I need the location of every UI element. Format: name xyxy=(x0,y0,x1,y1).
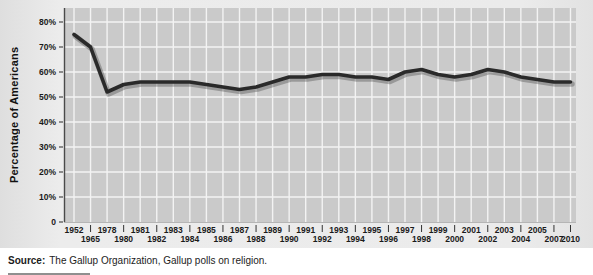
y-tick-label: 0 xyxy=(51,217,56,227)
y-tick-label: 80% xyxy=(39,17,56,27)
x-tick-label: 2002 xyxy=(478,234,497,244)
x-tick-label: 1996 xyxy=(379,234,398,244)
x-tick-label: 1990 xyxy=(280,234,299,244)
source-note: Source:The Gallup Organization, Gallup p… xyxy=(8,255,593,266)
y-tick-label: 50% xyxy=(39,92,56,102)
x-tick-label: 1984 xyxy=(180,234,199,244)
y-tick-label: 70% xyxy=(39,42,56,52)
x-tick-label: 1992 xyxy=(313,234,332,244)
x-tick-label: 1986 xyxy=(213,234,232,244)
y-tick-label: 40% xyxy=(39,117,56,127)
y-tick-label: 60% xyxy=(39,67,56,77)
x-tick-label: 1980 xyxy=(114,234,133,244)
x-tick-label: 1965 xyxy=(81,234,100,244)
x-tick-label: 2010 xyxy=(561,234,580,244)
x-tick-label: 2004 xyxy=(511,234,530,244)
y-tick-label: 30% xyxy=(39,142,56,152)
y-tick-label: 20% xyxy=(39,167,56,177)
source-text: The Gallup Organization, Gallup polls on… xyxy=(49,255,267,266)
y-tick-label: 10% xyxy=(39,192,56,202)
chart-panel: Percentage of Americans 010%20%30%40%50%… xyxy=(0,0,593,248)
x-tick-label: 1994 xyxy=(346,234,365,244)
x-tick-label: 1982 xyxy=(147,234,166,244)
x-tick-label: 2000 xyxy=(445,234,464,244)
x-tick-label: 1998 xyxy=(412,234,431,244)
line-chart: 010%20%30%40%50%60%70%80%195219651978198… xyxy=(0,0,593,248)
source-label: Source: xyxy=(8,255,45,266)
x-tick-label: 1988 xyxy=(247,234,266,244)
